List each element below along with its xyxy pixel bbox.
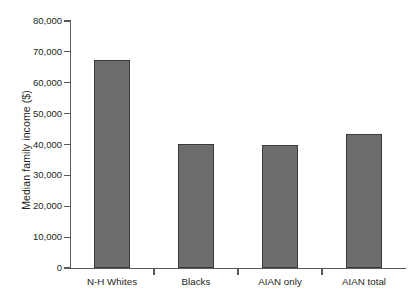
bar (94, 60, 130, 268)
y-axis-tick (64, 51, 70, 52)
x-axis-tick-label: Blacks (154, 276, 238, 287)
x-axis-tick (321, 269, 322, 275)
y-axis-tick-label: 0 (20, 263, 62, 272)
y-axis-tick (64, 144, 70, 145)
y-axis-tick-label: 70,000 (20, 47, 62, 56)
y-axis-tick-label: 50,000 (20, 109, 62, 118)
y-axis-tick-label: 60,000 (20, 78, 62, 87)
bar-chart-figure: Median family income ($) 010,00020,00030… (0, 0, 418, 301)
y-axis-tick (64, 267, 70, 268)
y-axis-tick-label: 40,000 (20, 140, 62, 149)
y-axis-tick-label: 80,000 (20, 16, 62, 25)
y-axis-tick (64, 175, 70, 176)
x-axis-tick-label: N-H Whites (70, 276, 154, 287)
y-axis-tick (64, 237, 70, 238)
y-axis-tick-label: 20,000 (20, 201, 62, 210)
y-axis-tick-label: 30,000 (20, 170, 62, 179)
bar (346, 134, 382, 268)
x-axis-tick (153, 269, 154, 275)
x-axis-tick-label: AIAN total (322, 276, 406, 287)
x-axis-tick (237, 269, 238, 275)
y-axis-tick (64, 82, 70, 83)
y-axis-tick (64, 20, 70, 21)
bar (178, 144, 214, 268)
y-axis-line (70, 20, 71, 269)
x-axis-tick-label: AIAN only (238, 276, 322, 287)
y-axis-tick (64, 113, 70, 114)
y-axis-tick (64, 206, 70, 207)
y-axis-tick-label: 10,000 (20, 232, 62, 241)
bar (262, 145, 298, 268)
